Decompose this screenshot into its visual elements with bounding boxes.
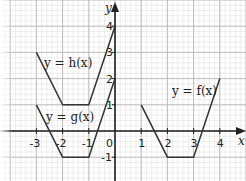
x-tick-label: 2 xyxy=(164,137,171,150)
x-tick-label: -3 xyxy=(29,137,40,150)
function-graph: xy-3-2-1012344321-1y = h(x)y = g(x)y = f… xyxy=(0,0,246,181)
x-tick-label: 1 xyxy=(138,137,145,150)
x-tick-label: 0 xyxy=(106,137,113,150)
chart-container: xy-3-2-1012344321-1y = h(x)y = g(x)y = f… xyxy=(0,0,246,181)
y-tick-label: 2 xyxy=(106,73,113,86)
f-curve-label: y = f(x) xyxy=(171,84,217,98)
x-axis-label: x xyxy=(238,134,245,148)
g-curve-label: y = g(x) xyxy=(45,110,94,124)
y-axis-label: y xyxy=(104,1,112,15)
h-curve-label: y = h(x) xyxy=(43,56,92,70)
left-edge-fade xyxy=(0,0,12,181)
y-axis-arrow-icon xyxy=(111,2,119,12)
x-tick-label: 4 xyxy=(217,137,224,150)
y-tick-label: -1 xyxy=(101,151,112,164)
y-tick-label: 4 xyxy=(106,20,113,33)
